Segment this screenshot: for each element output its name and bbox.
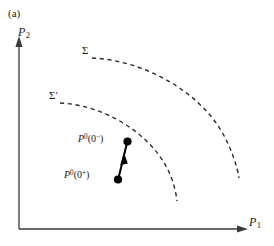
figure-panel-a: (a) P2 P1 Σ Σ′ P0(0−) P0(0+) xyxy=(0,0,274,246)
point-label-minus-arg-sup: − xyxy=(96,133,100,141)
point-p0-zero-plus-marker xyxy=(114,175,122,183)
curve-sigma-prime xyxy=(60,103,177,201)
y-axis-label: P2 xyxy=(18,26,30,40)
y-axis xyxy=(15,36,22,229)
panel-tag: (a) xyxy=(8,8,20,19)
point-p0-zero-minus-marker xyxy=(123,137,131,145)
x-axis-label: P1 xyxy=(249,216,261,230)
point-label-plus-arg-sup: + xyxy=(82,169,86,177)
curve-label-sigma-prime: Σ′ xyxy=(49,90,58,101)
x-axis-label-sub: 1 xyxy=(256,220,261,230)
figure-canvas xyxy=(0,0,274,246)
y-axis-label-sub: 2 xyxy=(25,30,30,40)
point-label-plus-arg: (0+) xyxy=(74,169,90,180)
x-axis xyxy=(19,225,248,232)
point-label-p0-zero-minus: P0(0−) xyxy=(78,134,103,144)
point-label-minus-arg: (0−) xyxy=(88,133,104,144)
curve-label-sigma: Σ xyxy=(82,45,88,56)
trajectory-arrow xyxy=(119,143,128,178)
point-label-p0-zero-plus: P0(0+) xyxy=(64,170,89,180)
